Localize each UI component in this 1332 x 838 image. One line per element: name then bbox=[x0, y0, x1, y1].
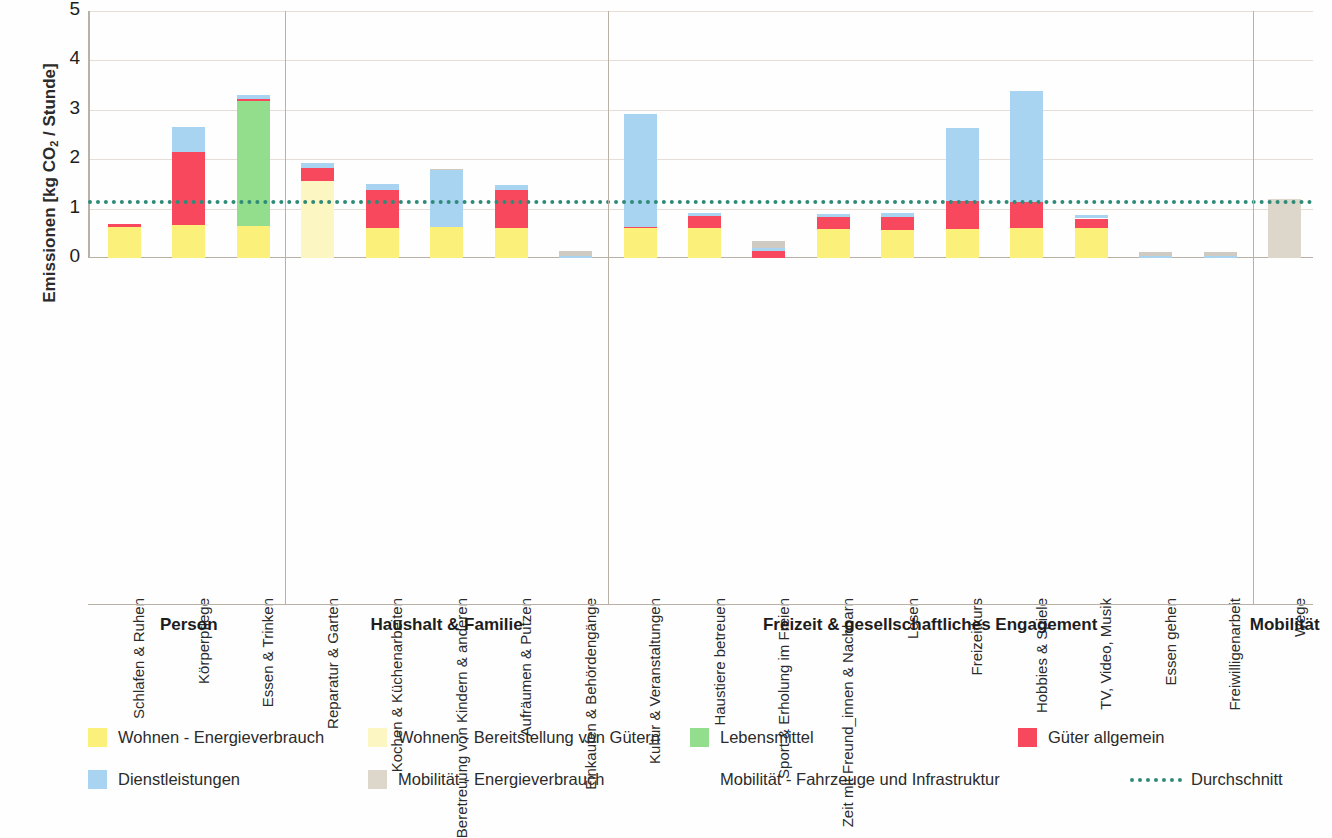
bar-column[interactable] bbox=[430, 11, 463, 258]
legend-dotted-line-icon bbox=[1130, 778, 1182, 782]
bar-segment bbox=[366, 184, 399, 190]
bar-column[interactable] bbox=[1075, 11, 1108, 258]
y-tick-label: 1 bbox=[40, 196, 80, 218]
x-category-label: Essen gehen bbox=[1162, 598, 1179, 686]
bar-segment bbox=[1010, 91, 1043, 202]
bar-segment bbox=[559, 256, 592, 258]
bar-segment bbox=[817, 229, 850, 258]
bar-segment bbox=[946, 229, 979, 258]
bar-segment bbox=[1075, 228, 1108, 258]
plot-area bbox=[88, 11, 1313, 258]
bar-segment bbox=[430, 169, 463, 171]
bar-segment bbox=[688, 216, 721, 228]
legend-label: Wohnen - Energieverbrauch bbox=[118, 728, 324, 747]
x-category-label: Freizeitkurs bbox=[968, 598, 985, 676]
bar-segment bbox=[752, 241, 785, 248]
x-category-label: Körperpflege bbox=[195, 598, 212, 684]
legend-item-lebensmittel[interactable]: Lebensmittel bbox=[690, 728, 814, 747]
legend-item-gueter-allgemein[interactable]: Güter allgemein bbox=[1018, 728, 1164, 747]
bar-column[interactable] bbox=[366, 11, 399, 258]
legend-label: Lebensmittel bbox=[720, 728, 814, 747]
legend-item-wohnen-energieverbrauch[interactable]: Wohnen - Energieverbrauch bbox=[88, 728, 324, 747]
category-band-baseline bbox=[88, 604, 1313, 605]
legend-swatch-lebensmittel bbox=[690, 728, 709, 747]
bar-column[interactable] bbox=[752, 11, 785, 258]
legend-label: Mobilität - Fahrzeuge und Infrastruktur bbox=[720, 770, 1000, 789]
bar-column[interactable] bbox=[1139, 11, 1172, 258]
bar-segment bbox=[1075, 215, 1108, 218]
x-category-label-text: Essen gehen bbox=[1162, 598, 1179, 686]
bar-column[interactable] bbox=[1010, 11, 1043, 258]
bar-column[interactable] bbox=[1204, 11, 1237, 258]
bar-column[interactable] bbox=[237, 11, 270, 258]
group-separator-extension bbox=[285, 258, 286, 605]
x-category-label-text: Freizeitkurs bbox=[968, 598, 985, 676]
group-label: Mobilität bbox=[985, 615, 1332, 635]
bar-segment bbox=[752, 248, 785, 250]
bar-segment bbox=[688, 213, 721, 216]
legend-label: Mobilität - Energieverbrauch bbox=[398, 770, 604, 789]
bar-segment bbox=[559, 251, 592, 256]
legend-item-wohnen-bereitstellung-gueter[interactable]: Wohnen - Bereitstellung von Gütern bbox=[368, 728, 660, 747]
bar-column[interactable] bbox=[301, 11, 334, 258]
bar-segment bbox=[108, 224, 141, 227]
bar-column[interactable] bbox=[688, 11, 721, 258]
y-tick-label: 2 bbox=[40, 146, 80, 168]
bar-segment bbox=[1268, 199, 1301, 258]
bar-segment bbox=[1010, 228, 1043, 258]
bar-column[interactable] bbox=[1268, 11, 1301, 258]
bar-segment bbox=[495, 190, 528, 228]
bar-segment bbox=[1139, 252, 1172, 256]
legend-item-mobilitaet-energieverbrauch[interactable]: Mobilität - Energieverbrauch bbox=[368, 770, 604, 789]
bar-segment bbox=[495, 228, 528, 258]
legend-label: Güter allgemein bbox=[1048, 728, 1164, 747]
bar-segment bbox=[624, 114, 657, 228]
bar-series-container bbox=[88, 11, 1313, 258]
bar-column[interactable] bbox=[108, 11, 141, 258]
bar-column[interactable] bbox=[559, 11, 592, 258]
bar-segment bbox=[108, 227, 141, 258]
bar-segment bbox=[1010, 202, 1043, 228]
bar-column[interactable] bbox=[624, 11, 657, 258]
legend-item-durchschnitt[interactable]: Durchschnitt bbox=[1130, 770, 1283, 789]
bar-segment bbox=[1204, 252, 1237, 256]
bar-segment bbox=[1204, 256, 1237, 258]
bar-segment bbox=[237, 226, 270, 258]
bar-segment bbox=[430, 227, 463, 258]
bar-segment bbox=[172, 225, 205, 258]
bar-segment bbox=[1139, 256, 1172, 258]
bar-segment bbox=[172, 152, 205, 225]
group-separator-extension bbox=[1253, 258, 1254, 605]
bar-segment bbox=[881, 230, 914, 258]
bar-column[interactable] bbox=[495, 11, 528, 258]
bar-segment bbox=[237, 101, 270, 226]
bar-column[interactable] bbox=[817, 11, 850, 258]
legend-swatch-wohnen-energieverbrauch bbox=[88, 728, 107, 747]
bar-segment bbox=[495, 185, 528, 190]
bar-segment bbox=[301, 168, 334, 181]
bar-segment bbox=[881, 213, 914, 217]
legend-swatch-mobilitaet-fahrzeuge-infrastruktur bbox=[690, 770, 709, 789]
bar-column[interactable] bbox=[946, 11, 979, 258]
bar-segment bbox=[172, 127, 205, 152]
bar-segment bbox=[624, 228, 657, 258]
legend-label: Dienstleistungen bbox=[118, 770, 240, 789]
bar-segment bbox=[752, 251, 785, 258]
bar-segment bbox=[688, 228, 721, 258]
bar-segment bbox=[366, 190, 399, 229]
group-separator bbox=[285, 11, 286, 258]
bar-segment bbox=[1075, 219, 1108, 229]
bar-segment bbox=[817, 217, 850, 229]
legend-swatch-dienstleistungen bbox=[88, 770, 107, 789]
group-separator bbox=[608, 11, 609, 258]
y-tick-label: 4 bbox=[40, 47, 80, 69]
bar-segment bbox=[301, 163, 334, 168]
bar-column[interactable] bbox=[881, 11, 914, 258]
legend-label: Wohnen - Bereitstellung von Gütern bbox=[398, 728, 660, 747]
bar-column[interactable] bbox=[172, 11, 205, 258]
x-axis-category-labels: Schlafen & RuhenKörperpflegeEssen & Trin… bbox=[88, 260, 1313, 605]
legend-item-mobilitaet-fahrzeuge-infrastruktur[interactable]: Mobilität - Fahrzeuge und Infrastruktur bbox=[690, 770, 1000, 789]
y-tick-label: 3 bbox=[40, 97, 80, 119]
legend-item-dienstleistungen[interactable]: Dienstleistungen bbox=[88, 770, 240, 789]
